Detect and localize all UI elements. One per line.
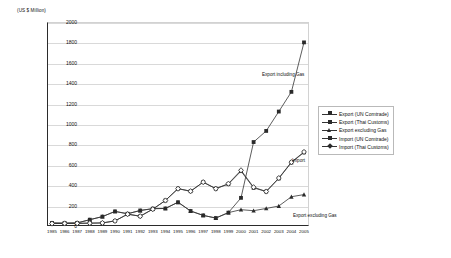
x-axis-tick-label: 1985: [47, 229, 57, 234]
legend-marker-icon: [322, 118, 337, 126]
x-axis-tick-label: 1991: [123, 229, 133, 234]
x-axis-tick-label: 1986: [60, 229, 70, 234]
data-point-marker: [290, 90, 294, 94]
chart-figure: (US $ Million) 0200400600800100012001400…: [0, 0, 451, 258]
x-axis-tick-label: 2004: [287, 229, 297, 234]
x-axis-tick-label: 1989: [98, 229, 108, 234]
legend-item-label: Export (Thai Customs): [337, 119, 389, 125]
legend-marker-icon: [322, 143, 337, 151]
legend-marker-icon: [322, 135, 337, 143]
legend-item[interactable]: Import (UN Comtrade): [322, 135, 389, 143]
data-point-marker: [239, 196, 243, 200]
legend-marker-icon: [322, 126, 337, 134]
x-axis-tick-label: 1999: [224, 229, 234, 234]
legend-item[interactable]: Export excluding Gas: [322, 126, 389, 134]
x-axis-tick-label: 1993: [148, 229, 158, 234]
legend-item[interactable]: Import (Thai Customs): [322, 143, 389, 151]
x-axis-tick-label: 1990: [110, 229, 120, 234]
y-axis-unit-label: (US $ Million): [17, 8, 46, 13]
x-axis-tick-label: 1988: [85, 229, 95, 234]
chart-legend: Export (UN Comtrade)Export (Thai Customs…: [318, 106, 394, 155]
legend-item-label: Export excluding Gas: [337, 127, 387, 133]
x-axis-tick-label: 2003: [274, 229, 284, 234]
data-point-marker: [277, 110, 281, 114]
annotation-label: Import: [292, 158, 305, 163]
data-point-marker: [264, 129, 268, 133]
legend-item-label: Import (UN Comtrade): [337, 136, 388, 142]
x-axis-tick-label: 1992: [135, 229, 145, 234]
x-axis-tick-label: 1997: [198, 229, 208, 234]
legend-item[interactable]: Export (UN Comtrade): [322, 110, 389, 118]
data-point-marker: [302, 41, 306, 45]
x-axis-tick-label: 2002: [261, 229, 271, 234]
series-lines: [47, 22, 309, 226]
x-axis-tick-label: 1995: [173, 229, 183, 234]
x-axis-tick-label: 2005: [299, 229, 309, 234]
legend-item[interactable]: Export (Thai Customs): [322, 118, 389, 126]
legend-marker-icon: [322, 110, 337, 118]
x-axis-tick-label: 2000: [236, 229, 246, 234]
legend-item-label: Export (UN Comtrade): [337, 111, 389, 117]
legend-item-label: Import (Thai Customs): [337, 144, 389, 150]
x-axis-tick-label: 1998: [211, 229, 221, 234]
annotation-label: Export excluding Gas: [293, 213, 337, 218]
data-point-marker: [277, 204, 281, 208]
x-axis-tick-label: 1994: [161, 229, 171, 234]
data-point-marker: [252, 140, 256, 144]
x-axis-tick-label: 1996: [186, 229, 196, 234]
annotation-label: Export including Gas: [262, 72, 304, 77]
x-axis-tick-label: 2001: [249, 229, 259, 234]
x-axis-tick-label: 1987: [72, 229, 82, 234]
data-point-marker: [302, 192, 306, 196]
